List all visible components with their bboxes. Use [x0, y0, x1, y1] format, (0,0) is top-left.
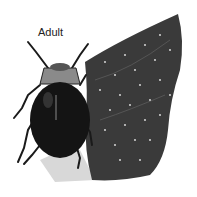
beetle-head	[50, 63, 70, 71]
beetle-shine	[43, 92, 53, 108]
beetle-body	[30, 82, 90, 158]
leaf	[85, 14, 182, 180]
beetle-leaf-illustration	[0, 0, 197, 197]
stage-label: Adult	[38, 26, 63, 38]
